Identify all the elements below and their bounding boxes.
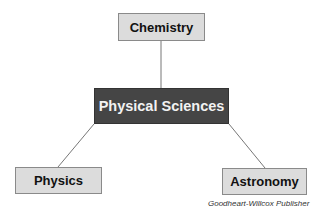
edge-astronomy [229,124,265,168]
node-label: Astronomy [230,174,299,189]
node-chemistry: Chemistry [118,13,205,41]
node-label: Physics [34,173,83,188]
node-physics: Physics [15,167,102,194]
node-physical-sciences: Physical Sciences [94,88,229,124]
node-label: Chemistry [130,20,194,35]
edge-physics [58,124,94,167]
node-astronomy: Astronomy [222,168,307,195]
node-label: Physical Sciences [99,98,225,114]
publisher-credit: Goodheart-Willcox Publisher [208,199,309,208]
